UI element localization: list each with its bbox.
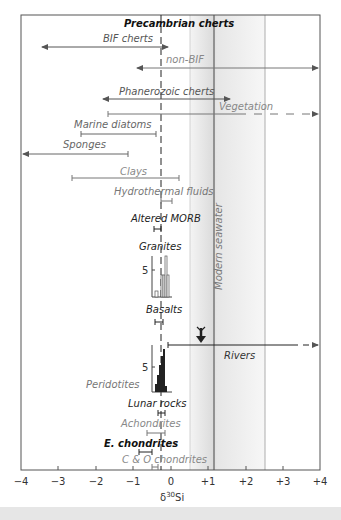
svg-text:−2: −2 — [89, 476, 104, 487]
svg-text:+2: +2 — [239, 476, 254, 487]
modern-seawater-label: Modern seawater — [213, 202, 224, 290]
label-clays: Clays — [120, 166, 147, 177]
svg-text:5: 5 — [142, 265, 148, 276]
range-achondrites — [147, 430, 165, 436]
silicon-isotope-range-chart: Modern seawater Precambrian cherts BIF c… — [0, 0, 341, 520]
label-vegetation: Vegetation — [219, 101, 273, 112]
label-phanerozoic-cherts: Phanerozoic cherts — [119, 86, 214, 97]
label-marine-diatoms: Marine diatoms — [74, 119, 152, 130]
label-achondrites: Achondrites — [120, 418, 181, 429]
label-precambrian-cherts: Precambrian cherts — [124, 18, 234, 29]
svg-text:+1: +1 — [201, 476, 216, 487]
label-bif-cherts: BIF cherts — [103, 33, 153, 44]
label-c-o-chondrites: C & O chondrites — [122, 454, 207, 465]
svg-text:5: 5 — [142, 362, 148, 373]
label-e-chondrites: E. chondrites — [104, 438, 178, 449]
svg-text:−4: −4 — [14, 476, 29, 487]
range-basalts — [155, 319, 163, 325]
label-rivers: Rivers — [224, 350, 255, 361]
x-axis-label: δ30Si — [160, 491, 184, 503]
range-altered-morb — [154, 226, 161, 232]
histogram-peridotites: 5 — [142, 345, 172, 392]
range-marine-diatoms — [81, 131, 156, 137]
svg-text:+3: +3 — [276, 476, 291, 487]
label-sponges: Sponges — [63, 139, 106, 150]
x-axis-tick-labels: −4 −3 −2 −1 0 +1 +2 +3 +4 — [14, 476, 328, 487]
range-sponges — [23, 151, 128, 157]
label-basalts: Basalts — [146, 304, 182, 315]
label-non-bif: non-BIF — [166, 54, 204, 65]
label-lunar-rocks: Lunar rocks — [128, 398, 186, 409]
label-altered-morb: Altered MORB — [130, 213, 201, 224]
label-peridotites: Peridotites — [86, 379, 140, 390]
histogram-granites: 5 — [142, 256, 172, 297]
modern-seawater-band: Modern seawater — [190, 15, 265, 470]
bottom-bar — [0, 507, 341, 520]
svg-text:−1: −1 — [126, 476, 141, 487]
svg-text:+4: +4 — [313, 476, 328, 487]
svg-text:−3: −3 — [51, 476, 66, 487]
svg-text:0: 0 — [168, 476, 174, 487]
label-granites: Granites — [139, 241, 181, 252]
label-hydrothermal-fluids: Hydrothermal fluids — [114, 186, 214, 197]
range-hydrothermal-fluids — [161, 198, 172, 204]
